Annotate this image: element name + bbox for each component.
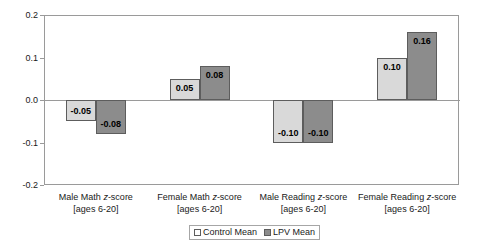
bar-value-label: 0.10 — [377, 63, 407, 72]
x-axis-category-label: Male Math z-score[ages 6-20] — [44, 191, 148, 215]
legend-label-lpv: LPV Mean — [273, 228, 315, 237]
legend-label-control: Control Mean — [203, 228, 257, 237]
legend-entry-lpv: LPV Mean — [264, 228, 315, 237]
y-axis-tick-label: 0.1 — [0, 54, 38, 63]
y-axis-tick-mark — [40, 15, 44, 16]
x-axis-category-label: Female Reading z-score[ages 6-20] — [355, 191, 459, 215]
y-axis-tick-mark — [40, 143, 44, 144]
bar-value-label: 0.05 — [170, 84, 200, 93]
legend-entry-control: Control Mean — [194, 228, 257, 237]
bar-value-label: -0.10 — [303, 129, 333, 138]
y-axis-tick-mark — [40, 58, 44, 59]
y-axis-tick-label: -0.1 — [0, 139, 38, 148]
chart-legend: Control Mean LPV Mean — [189, 225, 320, 240]
y-axis-tick-mark — [40, 185, 44, 186]
bar-value-label: 0.08 — [200, 71, 230, 80]
bar-value-label: -0.10 — [273, 129, 303, 138]
x-axis-category-label: Female Math z-score[ages 6-20] — [148, 191, 252, 215]
legend-swatch-lpv-icon — [264, 229, 271, 236]
y-axis-tick-label: -0.2 — [0, 181, 38, 190]
bar-value-label: -0.05 — [66, 107, 96, 116]
bar-value-label: -0.08 — [96, 120, 126, 129]
y-axis-tick-label: 0.2 — [0, 11, 38, 20]
bar-value-label: 0.16 — [407, 37, 437, 46]
legend-swatch-control-icon — [194, 229, 201, 236]
y-axis-tick-label: 0.0 — [0, 96, 38, 105]
x-axis-category-label: Male Reading z-score[ages 6-20] — [252, 191, 356, 215]
bar-chart: 0.20.10.0-0.1-0.2 -0.05-0.080.050.08-0.1… — [0, 0, 481, 245]
